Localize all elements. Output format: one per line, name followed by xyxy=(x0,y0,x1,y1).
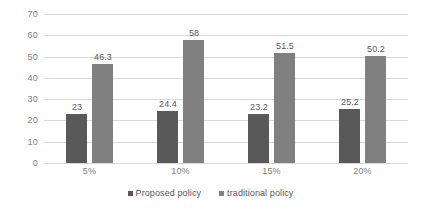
y-axis: 010203040506070 xyxy=(0,0,38,209)
bar-data-label: 58 xyxy=(177,28,211,38)
axis-baseline xyxy=(44,163,408,164)
y-axis-tick-label: 60 xyxy=(0,30,38,40)
bar-data-label: 51.5 xyxy=(268,41,302,51)
legend-label: traditional policy xyxy=(227,188,293,198)
bar[interactable] xyxy=(365,56,386,163)
y-axis-tick-label: 30 xyxy=(0,94,38,104)
bar-chart: 010203040506070 2346.324.45823.251.525.2… xyxy=(0,0,421,209)
y-axis-tick-label: 10 xyxy=(0,137,38,147)
x-axis: 5%10%15%20% xyxy=(44,166,408,182)
y-axis-tick-label: 0 xyxy=(0,158,38,168)
bar[interactable] xyxy=(66,114,87,163)
x-axis-tick-label: 20% xyxy=(317,166,408,176)
legend-swatch-icon xyxy=(128,191,133,196)
x-axis-tick-label: 5% xyxy=(44,166,135,176)
bar-data-label: 46.3 xyxy=(86,52,120,62)
bar-data-label: 24.4 xyxy=(151,99,185,109)
chart-legend: Proposed policytraditional policy xyxy=(0,188,421,198)
y-axis-tick-label: 20 xyxy=(0,115,38,125)
x-axis-tick-label: 15% xyxy=(226,166,317,176)
bar-data-label: 23 xyxy=(60,102,94,112)
y-axis-tick-label: 40 xyxy=(0,73,38,83)
bar-group: 25.250.2 xyxy=(339,14,386,163)
y-axis-tick-label: 70 xyxy=(0,9,38,19)
bar-group: 24.458 xyxy=(157,14,204,163)
bar-group: 2346.3 xyxy=(66,14,113,163)
bar-group: 23.251.5 xyxy=(248,14,295,163)
bar[interactable] xyxy=(157,111,178,163)
legend-item[interactable]: Proposed policy xyxy=(128,188,202,198)
bar-data-label: 23.2 xyxy=(242,102,276,112)
y-axis-tick-label: 50 xyxy=(0,52,38,62)
bar[interactable] xyxy=(183,40,204,163)
bar[interactable] xyxy=(92,64,113,163)
x-axis-tick-label: 10% xyxy=(135,166,226,176)
legend-swatch-icon xyxy=(219,191,224,196)
bar[interactable] xyxy=(248,114,269,163)
legend-label: Proposed policy xyxy=(136,188,202,198)
bar[interactable] xyxy=(274,53,295,163)
plot-area: 2346.324.45823.251.525.250.2 xyxy=(44,14,408,163)
legend-item[interactable]: traditional policy xyxy=(219,188,293,198)
bar[interactable] xyxy=(339,109,360,163)
bar-data-label: 50.2 xyxy=(359,44,393,54)
bar-data-label: 25.2 xyxy=(333,97,367,107)
